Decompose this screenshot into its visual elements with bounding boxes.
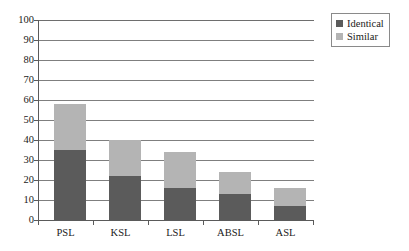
x-axis-label-absl: ABSL [203,227,258,239]
y-axis-label-10: 10 [24,195,35,206]
bar-group-psl[interactable] [54,104,86,220]
y-axis-label-80: 80 [24,55,35,66]
legend-swatch-similar-icon [336,33,343,40]
x-axis-label-asl: ASL [258,227,313,239]
x-tick-3 [203,220,204,225]
x-axis-label-lsl: LSL [148,227,203,239]
y-axis-label-50: 50 [24,115,35,126]
legend-item-similar[interactable]: Similar [336,30,384,43]
bar-segment-similar-lsl [164,152,196,188]
y-axis-label-60: 60 [24,95,35,106]
x-tick-2 [148,220,149,225]
bar-segment-similar-ksl [109,140,141,176]
bar-chart: 100 90 80 70 60 50 40 30 20 10 0 PSL KSL… [0,0,409,251]
bar-segment-similar-absl [219,172,251,194]
bar-group-asl[interactable] [274,188,306,220]
x-tick-end [313,220,314,225]
x-axis-line [38,220,314,221]
bar-segment-identical-ksl [109,176,141,220]
y-axis-label-90: 90 [24,35,35,46]
x-tick-start [38,220,39,225]
x-tick-1 [93,220,94,225]
legend-swatch-identical-icon [336,20,343,27]
bar-segment-identical-asl [274,206,306,220]
x-axis-label-ksl: KSL [93,227,148,239]
bar-segment-similar-psl [54,104,86,150]
bar-segment-identical-lsl [164,188,196,220]
y-axis-label-0: 0 [29,215,34,226]
bar-group-ksl[interactable] [109,140,141,220]
bar-segment-similar-asl [274,188,306,206]
x-axis-labels: PSL KSL LSL ABSL ASL [38,227,314,243]
x-tick-4 [258,220,259,225]
legend: Identical Similar [331,13,390,47]
legend-item-identical[interactable]: Identical [336,17,384,30]
legend-label-similar: Similar [347,31,378,42]
y-axis-labels: 100 90 80 70 60 50 40 30 20 10 0 [0,20,34,220]
y-axis-label-30: 30 [24,155,35,166]
y-axis-label-40: 40 [24,135,35,146]
y-axis-line [38,20,39,221]
bar-group-lsl[interactable] [164,152,196,220]
y-axis-label-70: 70 [24,75,35,86]
bar-series-container [38,20,314,220]
y-axis-label-100: 100 [18,15,34,26]
bar-segment-identical-absl [219,194,251,220]
legend-label-identical: Identical [347,18,384,29]
bar-group-absl[interactable] [219,172,251,220]
x-axis-label-psl: PSL [38,227,93,239]
y-axis-label-20: 20 [24,175,35,186]
bar-segment-identical-psl [54,150,86,220]
